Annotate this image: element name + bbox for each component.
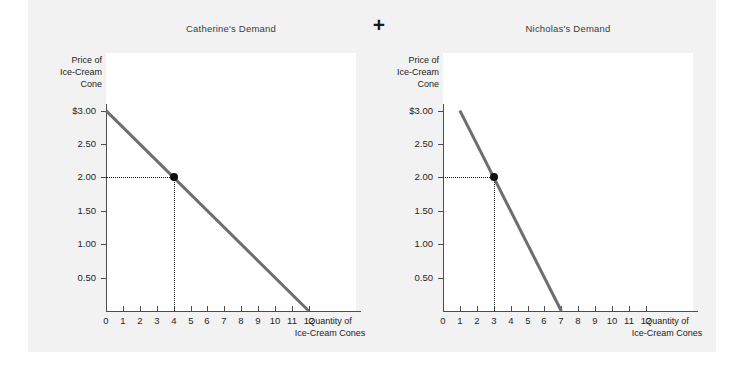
equilibrium-point-nicholas: [490, 173, 498, 181]
demand-curves-figure: Catherine's Demand Nicholas's Demand + P…: [0, 0, 746, 365]
equilibrium-guide-horizontal-nicholas: [443, 177, 494, 178]
equilibrium-guide-vertical-nicholas: [494, 177, 495, 311]
demand-curve-nicholas: [0, 0, 746, 365]
